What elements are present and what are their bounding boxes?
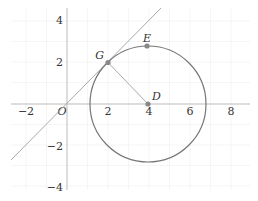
segment-gd xyxy=(108,63,148,105)
x-tick-label: 6 xyxy=(187,105,194,118)
line-og xyxy=(11,8,161,160)
grid xyxy=(11,8,250,190)
point-g xyxy=(105,60,110,65)
y-tick-label: −2 xyxy=(47,140,63,153)
y-tick-label: 4 xyxy=(56,14,63,27)
label-d: D xyxy=(151,90,161,103)
x-tick-label: 2 xyxy=(105,105,112,118)
x-tick-label: 8 xyxy=(228,105,235,118)
x-tick-label: −2 xyxy=(18,105,34,118)
x-tick-label: 4 xyxy=(146,105,153,118)
y-tick-label: −4 xyxy=(47,181,63,194)
label-g: G xyxy=(95,49,104,62)
y-tick-label: 2 xyxy=(56,56,63,69)
geometry-figure: −2 2 4 6 8 4 2 −2 −4 O G E D xyxy=(0,0,258,201)
label-e: E xyxy=(142,32,151,45)
point-d xyxy=(145,101,150,106)
